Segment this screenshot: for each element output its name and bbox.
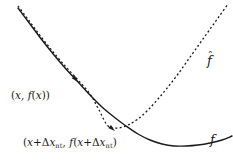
curve-f-hat-dashed: [18, 4, 228, 128]
label-point-x-comma: ,: [21, 89, 28, 101]
label-curve-f-hat: ˆf: [207, 54, 212, 67]
arrow-to-point-step-icon: [108, 125, 115, 131]
label-step-plus-1: +: [33, 136, 42, 148]
label-step-plus-2: +: [83, 136, 92, 148]
f-hat-glyph: ˆf: [207, 54, 212, 67]
curve-f-solid: [18, 8, 232, 146]
label-step-delta-2: Δ: [92, 136, 100, 148]
hat-accent-icon: ˆ: [207, 51, 213, 62]
label-point-x: (x, f(x)): [11, 90, 50, 101]
label-point-step: (x+Δxnt, f(x+Δxnt): [23, 137, 117, 149]
label-step-close-paren: ): [113, 136, 117, 148]
label-point-x-close-paren: ): [46, 89, 50, 101]
label-step-subscript-1: nt: [55, 142, 62, 150]
label-curve-f-symbol: f: [210, 132, 215, 147]
curve-group: [18, 4, 232, 146]
label-step-subscript-2: nt: [106, 142, 113, 150]
label-curve-f: f: [210, 133, 215, 146]
math-figure: (x, f(x)) (x+Δxnt, f(x+Δxnt) ˆf f: [0, 0, 233, 162]
